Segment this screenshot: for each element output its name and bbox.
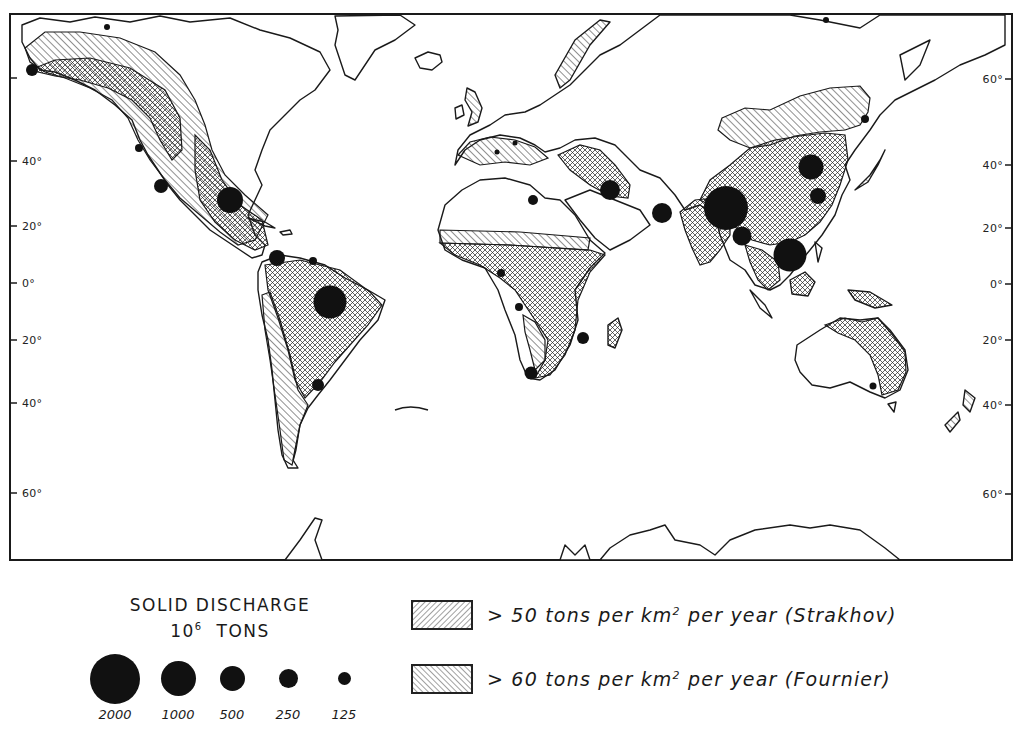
discharge-size-scale: 2000 1000 500 250 125: [90, 654, 390, 729]
map-svg: [8, 13, 1013, 561]
lat-label-right-40s: 40°: [983, 399, 1003, 412]
lat-label-right-40n: 40°: [983, 159, 1003, 172]
lat-label-right-20n: 20°: [983, 222, 1003, 235]
legend-fournier-label: > 60 tons per km2 per year (Fournier): [487, 668, 891, 690]
circle-icon: [90, 654, 140, 704]
discharge-legend: SOLID DISCHARGE 106 TONS 2000 1000 500 2…: [90, 594, 350, 642]
back-hatch-swatch-icon: [411, 664, 473, 694]
size-2000: 2000: [90, 654, 140, 722]
size-125: 125: [324, 672, 364, 722]
lat-label-left-40n: 40°: [22, 155, 42, 168]
lat-label-left-40s: 40°: [22, 397, 42, 410]
circle-icon: [279, 669, 298, 688]
size-500: 500: [212, 666, 252, 722]
lat-label-left-60s: 60°: [22, 487, 42, 500]
lat-label-left-20s: 20°: [22, 334, 42, 347]
lat-label-right-60s: 60°: [983, 488, 1003, 501]
circle-icon: [338, 672, 351, 685]
world-map: [8, 13, 1013, 561]
legend-strakhov-label: > 50 tons per km2 per year (Strakhov): [487, 604, 897, 626]
size-1000: 1000: [153, 661, 203, 722]
discharge-legend-title: SOLID DISCHARGE 106 TONS: [90, 594, 350, 642]
lat-label-left-20n: 20°: [22, 220, 42, 233]
forward-hatch-swatch-icon: [411, 600, 473, 630]
lat-label-right-0: 0°: [990, 278, 1003, 291]
circle-icon: [220, 666, 245, 691]
lat-label-right-60n: 60°: [983, 73, 1003, 86]
discharge-title-line2: 106 TONS: [90, 616, 350, 642]
lat-label-right-20s: 20°: [983, 334, 1003, 347]
legend-strakhov: > 50 tons per km2 per year (Strakhov): [411, 600, 897, 630]
legend-fournier: > 60 tons per km2 per year (Fournier): [411, 664, 891, 694]
discharge-title-line1: SOLID DISCHARGE: [90, 594, 350, 616]
lat-label-left-0: 0°: [22, 277, 35, 290]
circle-icon: [161, 661, 196, 696]
size-250: 250: [268, 669, 308, 722]
